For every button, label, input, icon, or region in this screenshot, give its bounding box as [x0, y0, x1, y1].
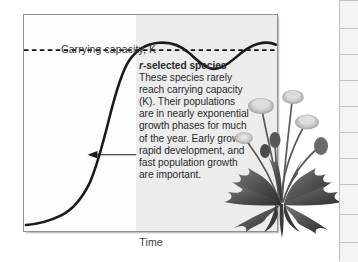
page-edge-segment [340, 214, 358, 243]
page-edge-segment [340, 132, 358, 159]
carrying-capacity-label: Carrying capacity, K [61, 43, 156, 55]
callout-title: r-selected species [139, 60, 251, 72]
page-edge-segment [340, 0, 358, 29]
callout-body-text: These species rarely reach carrying capa… [139, 72, 251, 181]
page-edge-segment [340, 80, 358, 107]
page-edge-segment [340, 242, 358, 262]
page-edge-segment [340, 106, 358, 133]
callout-title-rest: -selected species [143, 60, 227, 71]
callout-text-block: r-selected species These species rarely … [139, 60, 251, 181]
x-axis-label: Time [23, 236, 279, 248]
page-edge-segment [340, 158, 358, 185]
page-edge-segment [340, 54, 358, 81]
page-edge-segment [340, 184, 358, 215]
callout-arrow [87, 151, 136, 159]
page-edge-strip [336, 0, 358, 261]
page-edge-segment [340, 28, 358, 55]
